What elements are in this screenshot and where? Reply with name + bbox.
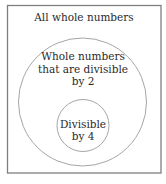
divisible-by-2-label-line-2: that are divisible [38, 63, 128, 75]
divisible-by-4-label-line-2: by 4 [72, 130, 95, 142]
divisible-by-2-label-line-3: by 2 [72, 75, 95, 87]
divisible-by-4-label-line-1: Divisible [60, 118, 106, 130]
outer-set-box [8, 6, 162, 174]
divisible-by-2-label-line-1: Whole numbers [41, 50, 125, 62]
outer-set-label: All whole numbers [33, 11, 133, 23]
venn-diagram: All whole numbers Whole numbers that are… [0, 0, 166, 184]
